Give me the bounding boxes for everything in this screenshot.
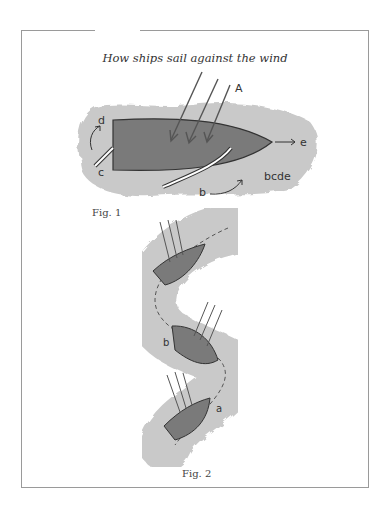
label-b: b (199, 186, 206, 199)
label-A: A (235, 82, 243, 95)
fig2-caption: Fig. 2 (182, 468, 211, 479)
diagram: A d c b e bcde b a (0, 0, 388, 506)
fig2-label-a: a (216, 403, 222, 414)
fig2-label-b: b (163, 337, 169, 348)
label-d: d (98, 114, 105, 127)
label-e: e (300, 136, 307, 149)
label-bcde: bcde (264, 170, 291, 183)
fig1-caption: Fig. 1 (92, 207, 121, 218)
label-c: c (98, 166, 104, 179)
